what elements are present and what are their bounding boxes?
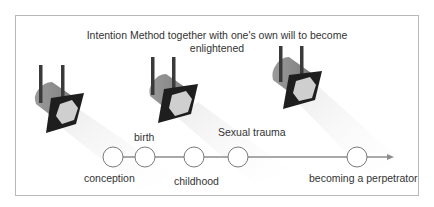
label-childhood: childhood [174,175,219,187]
spotlight-icon [272,46,322,109]
spotlight-icon [149,57,198,123]
timeline-node-childhood[interactable] [184,147,204,167]
label-conception: conception [84,172,135,184]
label-birth: birth [134,131,154,143]
timeline-node-birth[interactable] [135,147,155,167]
timeline-node-conception[interactable] [103,147,123,167]
timeline-node-sexual-trauma[interactable] [228,147,248,167]
light-beam-2 [178,102,290,185]
title-line-2: enlightened [60,42,374,55]
diagram-title: Intention Method together with one's own… [60,29,374,54]
title-line-1: Intention Method together with one's own… [60,29,374,42]
timeline-node-becoming-perpetrator[interactable] [347,147,367,167]
label-becoming-perpetrator: becoming a perpetrator [309,172,418,184]
label-sexual-trauma: Sexual trauma [218,126,286,138]
